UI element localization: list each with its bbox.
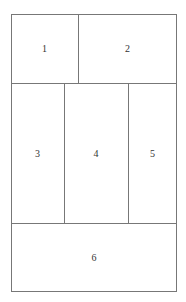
region-3: 3 [11, 83, 64, 223]
region-label: 4 [94, 148, 99, 159]
region-5: 5 [128, 83, 177, 223]
region-label: 6 [92, 252, 97, 263]
region-6: 6 [11, 223, 177, 292]
region-label: 5 [150, 148, 155, 159]
region-label: 1 [42, 43, 47, 54]
region-label: 3 [35, 148, 40, 159]
region-label: 2 [125, 43, 130, 54]
region-4: 4 [64, 83, 128, 223]
region-1: 1 [11, 14, 78, 83]
region-2: 2 [78, 14, 177, 83]
